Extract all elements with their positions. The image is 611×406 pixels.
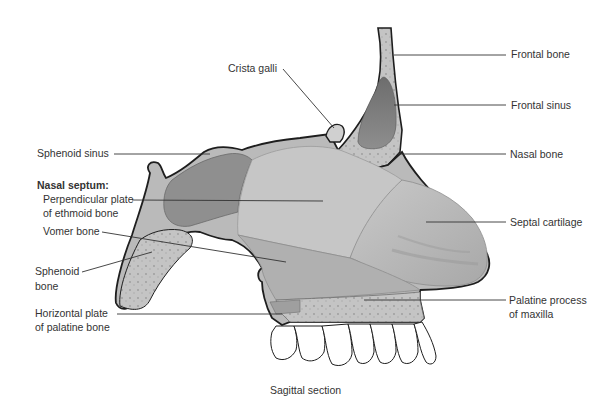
figure-caption: Sagittal section — [0, 384, 611, 396]
nasal-septum-figure: Crista galli Sphenoid sinus Nasal septum… — [0, 0, 611, 406]
label-palatine-process-line1: Palatine process — [509, 294, 587, 307]
label-perpendicular-plate-line1: Perpendicular plate — [43, 193, 133, 206]
label-crista-galli: Crista galli — [228, 62, 277, 75]
label-horizontal-plate-line2: of palatine bone — [35, 321, 110, 334]
crista-galli-shape — [326, 124, 344, 142]
label-nasal-bone: Nasal bone — [510, 148, 563, 161]
frontal-bone-shape — [338, 28, 402, 170]
label-sphenoid-sinus: Sphenoid sinus — [37, 147, 109, 160]
label-septal-cartilage: Septal cartilage — [510, 216, 582, 229]
label-frontal-sinus: Frontal sinus — [511, 99, 571, 112]
label-horizontal-plate-line1: Horizontal plate — [35, 307, 108, 320]
label-perpendicular-plate-line2: of ethmoid bone — [43, 207, 118, 220]
label-palatine-process-line2: of maxilla — [509, 308, 553, 321]
teeth — [271, 322, 436, 366]
label-sphenoid-bone-line2: bone — [35, 280, 58, 293]
label-frontal-bone: Frontal bone — [511, 48, 570, 61]
label-sphenoid-bone-line1: Sphenoid — [35, 265, 79, 278]
label-nasal-septum-heading: Nasal septum: — [37, 179, 109, 192]
label-vomer-bone: Vomer bone — [43, 225, 100, 238]
